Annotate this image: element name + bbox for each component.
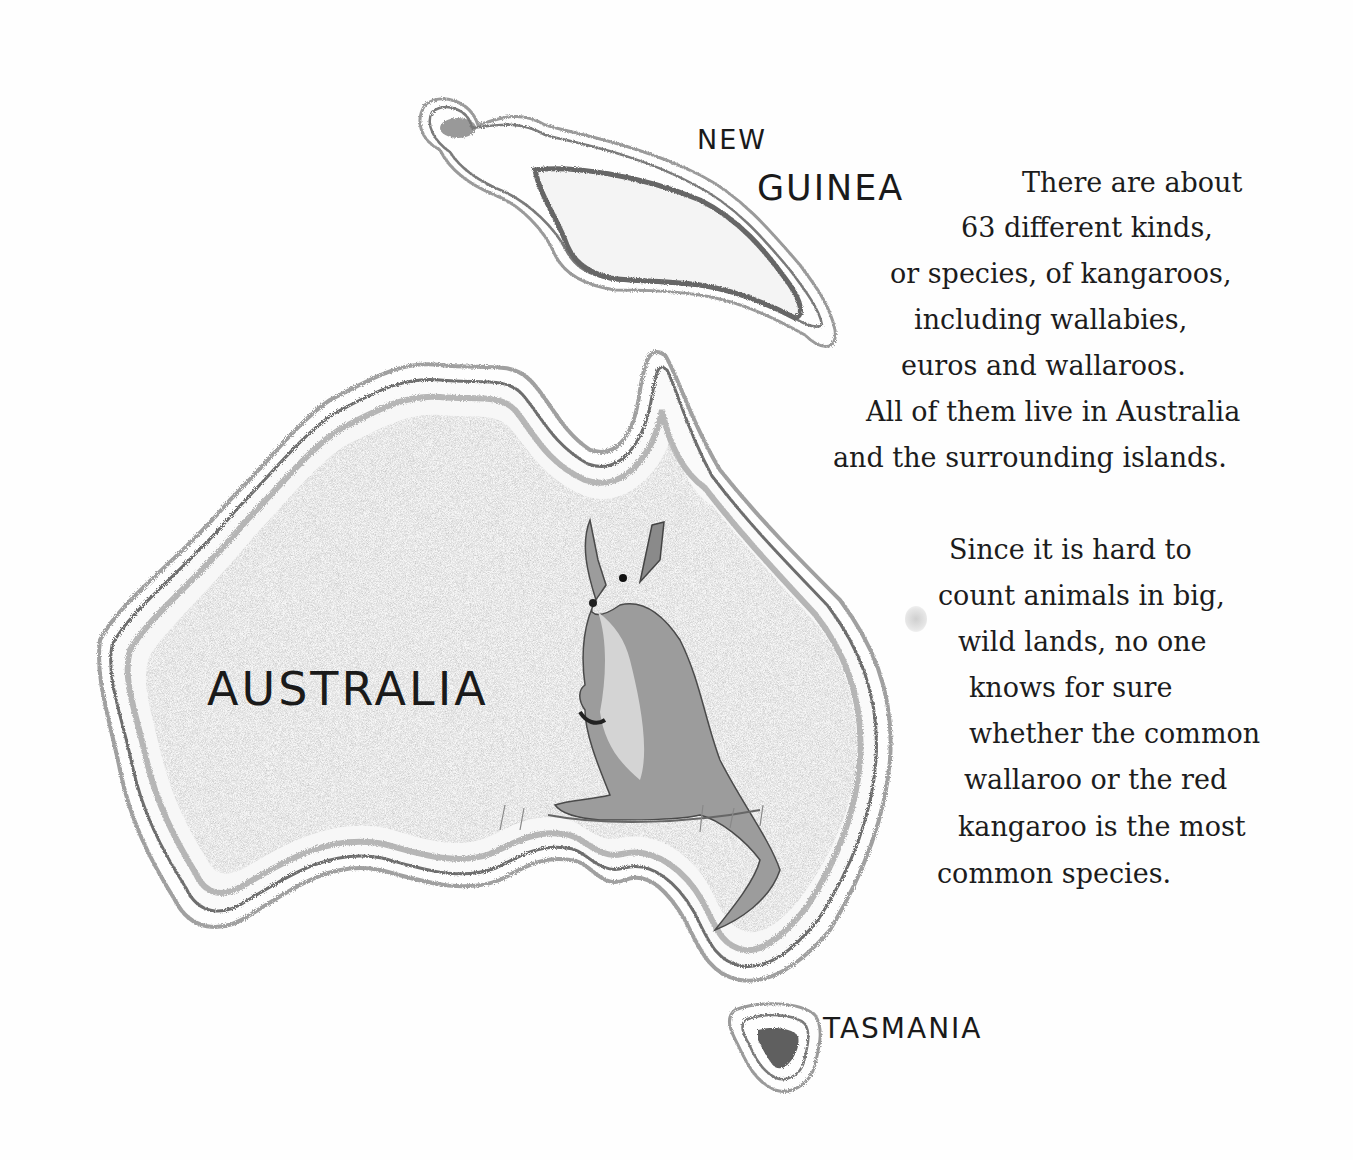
text-line: All of them live in Australia — [866, 389, 1240, 435]
text-line: Since it is hard to — [949, 527, 1192, 573]
new-guinea-label-line1: NEW — [697, 124, 767, 155]
text-line: including wallabies, — [914, 297, 1187, 343]
text-line: or species, of kangaroos, — [890, 251, 1232, 297]
text-line: and the surrounding islands. — [833, 435, 1227, 481]
text-line: wallaroo or the red — [964, 757, 1227, 803]
text-line: wild lands, no one — [958, 619, 1207, 665]
new-guinea-island — [420, 99, 835, 347]
text-line: whether the common — [969, 711, 1260, 757]
text-line: kangaroo is the most — [958, 804, 1246, 850]
book-page: NEW GUINEA AUSTRALIA TASMANIA There are … — [0, 0, 1353, 1160]
text-line: common species. — [937, 851, 1171, 897]
australia-label: AUSTRALIA — [207, 662, 489, 716]
new-guinea-label-line2: GUINEA — [757, 168, 904, 208]
tasmania-island — [729, 1004, 820, 1092]
paper-smudge — [905, 606, 927, 632]
tasmania-label: TASMANIA — [823, 1012, 983, 1045]
text-line: 63 different kinds, — [961, 205, 1213, 251]
text-line: knows for sure — [969, 665, 1172, 711]
text-line: euros and wallaroos. — [901, 343, 1186, 389]
text-line: There are about — [1022, 160, 1242, 206]
text-line: count animals in big, — [938, 573, 1225, 619]
